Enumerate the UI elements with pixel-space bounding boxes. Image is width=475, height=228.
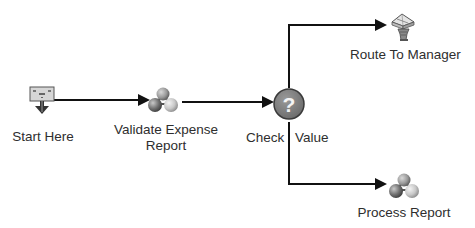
- molecule-activity-icon[interactable]: [389, 174, 419, 199]
- workflow-canvas: ?: [0, 0, 475, 228]
- node-label-validate-line2: Report: [110, 138, 222, 154]
- node-label-check-left: Check: [246, 130, 284, 146]
- start-terminal-icon[interactable]: [30, 87, 54, 114]
- node-label-check-right: Value: [295, 130, 329, 146]
- question-decision-icon[interactable]: ?: [274, 89, 304, 119]
- node-label-route: Route To Manager: [350, 47, 460, 63]
- node-label-start: Start Here: [12, 129, 74, 145]
- node-label-process: Process Report: [356, 205, 452, 221]
- svg-text:?: ?: [283, 93, 296, 116]
- manager-routing-icon[interactable]: [392, 14, 414, 41]
- edge-validate-to-check: [182, 96, 274, 108]
- node-label-validate: Validate Expense Report: [110, 122, 222, 154]
- edge-start-to-validate: [53, 94, 150, 106]
- node-label-validate-line1: Validate Expense: [110, 122, 222, 138]
- molecule-activity-icon[interactable]: [148, 88, 178, 113]
